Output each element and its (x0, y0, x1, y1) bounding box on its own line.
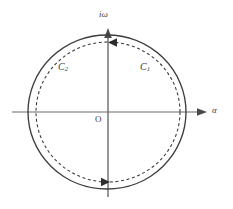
complex-plane-contour-figure: iω α C1 C2 O (0, 0, 233, 209)
origin-label: O (95, 115, 102, 124)
contour-c1-label: C1 (140, 62, 150, 73)
contour-c2-label: C2 (58, 62, 68, 73)
imaginary-axis-arrowhead (104, 28, 112, 38)
contour-c2-label-subscript: 2 (65, 65, 68, 72)
contour-c2-label-base: C (58, 61, 65, 72)
real-axis-label: α (212, 106, 217, 115)
real-axis-arrowhead (197, 108, 207, 116)
imaginary-axis-label: iω (99, 10, 108, 19)
real-axis-group (12, 108, 207, 116)
contour-diagram-canvas (0, 0, 233, 209)
contour-direction-arrow-top (108, 38, 117, 46)
contour-c1-label-subscript: 1 (147, 65, 150, 72)
contour-c1-label-base: C (140, 61, 147, 72)
